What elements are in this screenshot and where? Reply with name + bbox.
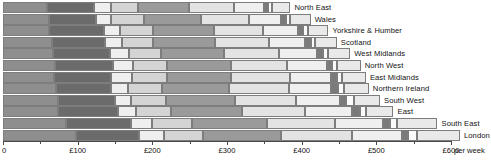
bar-segment[interactable] <box>139 130 164 141</box>
bar-segment[interactable] <box>144 14 201 25</box>
bar-segment[interactable] <box>287 60 327 71</box>
bar-segment[interactable] <box>189 2 235 13</box>
bar-segment[interactable] <box>352 130 401 141</box>
bar-segment[interactable] <box>3 60 55 71</box>
bar-segment[interactable] <box>267 118 336 129</box>
bar-segment[interactable] <box>3 95 58 106</box>
bar-segment[interactable] <box>234 2 263 13</box>
bar-segment[interactable] <box>111 83 128 94</box>
bar-segment[interactable] <box>104 25 120 36</box>
bar-segment[interactable] <box>417 130 460 141</box>
bar-segment[interactable] <box>58 95 115 106</box>
bar-segment[interactable] <box>214 25 263 36</box>
bar-segment[interactable] <box>129 48 161 59</box>
bar-segment[interactable] <box>3 130 76 141</box>
bar-segment[interactable] <box>3 72 54 83</box>
bar-segment[interactable] <box>49 25 104 36</box>
stacked-bar[interactable] <box>3 72 366 83</box>
bar-segment[interactable] <box>53 48 110 59</box>
bar-segment[interactable] <box>402 130 409 141</box>
bar-segment[interactable] <box>328 48 350 59</box>
bar-segment[interactable] <box>76 130 139 141</box>
bar-segment[interactable] <box>94 2 111 13</box>
bar-segment[interactable] <box>49 14 97 25</box>
bar-segment[interactable] <box>120 25 153 36</box>
bar-segment[interactable] <box>305 106 351 117</box>
bar-segment[interactable] <box>56 83 111 94</box>
bar-segment[interactable] <box>166 95 235 106</box>
bar-segment[interactable] <box>249 14 281 25</box>
bar-segment[interactable] <box>231 60 288 71</box>
bar-segment[interactable] <box>111 2 138 13</box>
bar-segment[interactable] <box>281 130 353 141</box>
bar-segment[interactable] <box>354 95 380 106</box>
bar-segment[interactable] <box>229 83 289 94</box>
bar-segment[interactable] <box>3 14 49 25</box>
bar-segment[interactable] <box>235 95 296 106</box>
bar-segment[interactable] <box>3 48 53 59</box>
bar-segment[interactable] <box>171 106 242 117</box>
bar-segment[interactable] <box>3 25 49 36</box>
bar-segment[interactable] <box>3 37 52 48</box>
stacked-bar[interactable] <box>3 25 328 36</box>
bar-segment[interactable] <box>96 14 111 25</box>
bar-segment[interactable] <box>153 37 215 48</box>
bar-segment[interactable] <box>111 72 132 83</box>
bar-segment[interactable] <box>315 37 337 48</box>
bar-segment[interactable] <box>337 60 360 71</box>
bar-segment[interactable] <box>47 2 94 13</box>
bar-segment[interactable] <box>296 95 340 106</box>
bar-segment[interactable] <box>122 37 153 48</box>
stacked-bar[interactable] <box>3 14 311 25</box>
bar-segment[interactable] <box>289 83 332 94</box>
bar-segment[interactable] <box>138 2 189 13</box>
stacked-bar[interactable] <box>3 48 350 59</box>
bar-segment[interactable] <box>52 37 104 48</box>
bar-segment[interactable] <box>346 95 353 106</box>
bar-segment[interactable] <box>105 37 122 48</box>
bar-segment[interactable] <box>308 25 329 36</box>
bar-segment[interactable] <box>3 106 58 117</box>
bar-segment[interactable] <box>131 95 166 106</box>
bar-segment[interactable] <box>344 83 369 94</box>
bar-segment[interactable] <box>290 14 310 25</box>
bar-segment[interactable] <box>352 106 360 117</box>
bar-segment[interactable] <box>131 118 153 129</box>
bar-segment[interactable] <box>132 72 166 83</box>
bar-segment[interactable] <box>111 14 144 25</box>
bar-segment[interactable] <box>335 118 383 129</box>
bar-segment[interactable] <box>231 72 289 83</box>
bar-segment[interactable] <box>128 83 162 94</box>
bar-segment[interactable] <box>3 83 56 94</box>
bar-segment[interactable] <box>161 48 224 59</box>
bar-segment[interactable] <box>263 25 298 36</box>
bar-segment[interactable] <box>192 118 267 129</box>
bar-segment[interactable] <box>118 106 136 117</box>
bar-segment[interactable] <box>331 83 338 94</box>
bar-segment[interactable] <box>3 2 47 13</box>
bar-segment[interactable] <box>201 14 250 25</box>
bar-segment[interactable] <box>408 130 416 141</box>
stacked-bar[interactable] <box>3 37 337 48</box>
bar-segment[interactable] <box>115 95 131 106</box>
bar-segment[interactable] <box>269 37 306 48</box>
bar-segment[interactable] <box>383 118 390 129</box>
bar-segment[interactable] <box>366 106 394 117</box>
stacked-bar[interactable] <box>3 118 437 129</box>
bar-segment[interactable] <box>3 118 66 129</box>
bar-segment[interactable] <box>390 118 397 129</box>
bar-segment[interactable] <box>152 118 192 129</box>
bar-segment[interactable] <box>54 72 111 83</box>
bar-segment[interactable] <box>272 2 291 13</box>
bar-segment[interactable] <box>342 72 366 83</box>
stacked-bar[interactable] <box>3 2 290 13</box>
stacked-bar[interactable] <box>3 83 369 94</box>
stacked-bar[interactable] <box>3 95 380 106</box>
stacked-bar[interactable] <box>3 130 460 141</box>
bar-segment[interactable] <box>279 48 317 59</box>
bar-segment[interactable] <box>66 118 131 129</box>
bar-segment[interactable] <box>397 118 437 129</box>
bar-segment[interactable] <box>110 48 129 59</box>
bar-segment[interactable] <box>242 106 305 117</box>
bar-segment[interactable] <box>224 48 279 59</box>
